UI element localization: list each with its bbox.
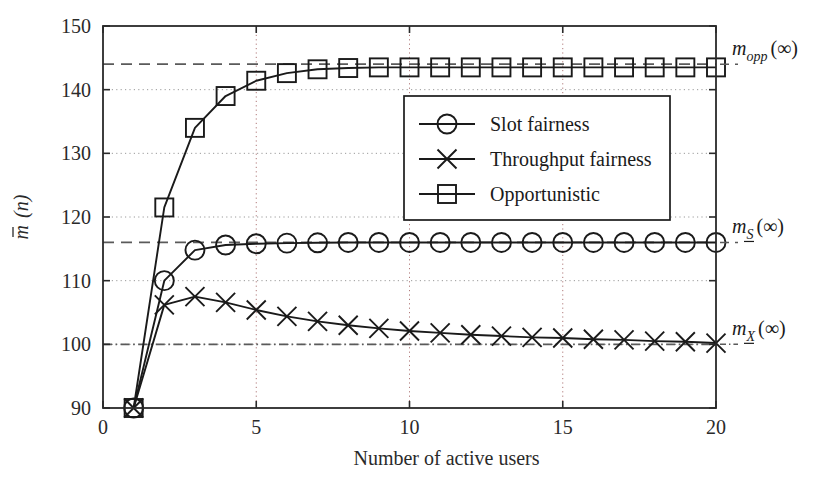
x-tick-label: 20 — [706, 416, 726, 438]
y-tick-label: 130 — [61, 142, 91, 164]
y-tick-label: 150 — [61, 15, 91, 37]
legend-label: Slot fairness — [490, 113, 590, 135]
y-tick-label: 90 — [71, 397, 91, 419]
x-tick-label: 10 — [400, 416, 420, 438]
legend-label: Opportunistic — [490, 183, 600, 206]
legend-label: Throughput fairness — [490, 148, 652, 171]
x-axis-title: Number of active users — [353, 447, 539, 469]
line-chart: 9010011012013014015005101520Number of ac… — [0, 0, 835, 479]
y-tick-label: 140 — [61, 79, 91, 101]
legend: Slot fairnessThroughput fairnessOpportun… — [404, 96, 670, 220]
y-tick-label: 110 — [62, 270, 91, 292]
y-tick-label: 100 — [61, 333, 91, 355]
x-tick-label: 15 — [553, 416, 573, 438]
x-tick-label: 5 — [251, 416, 261, 438]
x-tick-label: 0 — [98, 416, 108, 438]
y-axis-title: m (n) — [10, 194, 33, 239]
y-tick-label: 120 — [61, 206, 91, 228]
chart-figure: 9010011012013014015005101520Number of ac… — [0, 0, 835, 479]
